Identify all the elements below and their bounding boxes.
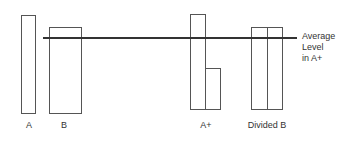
- legend-line3: in A+: [302, 53, 335, 64]
- bar-divided-b-left: [251, 27, 268, 110]
- average-level-legend: Average Level in A+: [302, 31, 335, 64]
- bar-a: [21, 15, 36, 114]
- average-level-line: [43, 37, 297, 39]
- label-b: B: [61, 120, 67, 130]
- bar-divided-b-right: [267, 27, 283, 110]
- legend-line2: Level: [302, 42, 335, 53]
- label-a: A: [26, 120, 32, 130]
- bar-a-plus-short: [205, 68, 221, 110]
- label-a-plus: A+: [200, 120, 211, 130]
- legend-line1: Average: [302, 31, 335, 42]
- bar-a-plus-tall: [190, 14, 206, 110]
- label-divided-b: Divided B: [248, 120, 287, 130]
- bar-b: [49, 27, 82, 114]
